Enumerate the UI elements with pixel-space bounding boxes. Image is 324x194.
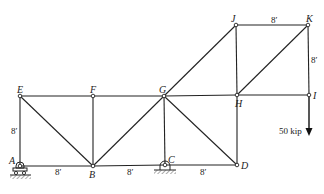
dimension-CD: 8′ — [200, 168, 206, 177]
load-label: 50 kip — [279, 127, 302, 136]
load-arrow — [306, 95, 313, 136]
member-HJ — [236, 25, 237, 95]
node-label-G: G — [159, 85, 166, 95]
joint-A — [18, 164, 22, 168]
node-label-I: I — [313, 91, 316, 101]
node-label-F: F — [90, 85, 96, 95]
node-label-D: D — [241, 161, 248, 171]
dimension-BC: 8′ — [127, 168, 133, 177]
node-label-C: C — [168, 155, 175, 165]
member-BC — [93, 165, 165, 166]
joint-D — [235, 163, 239, 167]
member-IK — [308, 25, 309, 95]
joint-B — [91, 164, 95, 168]
dimension-KI: 8′ — [311, 56, 317, 65]
joint-I — [307, 93, 311, 97]
member-GJ — [164, 25, 236, 96]
node-label-E: E — [17, 85, 23, 95]
member-CG — [164, 96, 165, 165]
dimension-JK: 8′ — [271, 16, 277, 25]
node-label-K: K — [306, 14, 313, 24]
dimension-AB: 8′ — [55, 168, 61, 177]
node-label-J: J — [231, 14, 235, 24]
member-EB — [20, 96, 93, 166]
truss-drawing — [0, 0, 324, 194]
joint-H — [235, 93, 239, 97]
node-label-A: A — [9, 156, 15, 166]
truss-diagram: A B C D E F G H I J K 8′ 8′ 8′ 8′ 8′ 8′ … — [0, 0, 324, 194]
joint-C — [163, 163, 167, 167]
member-HK — [237, 25, 308, 95]
member-BG — [93, 96, 164, 166]
node-label-B: B — [89, 170, 95, 180]
dimension-AE: 8′ — [11, 127, 17, 136]
member-GH — [164, 95, 237, 96]
node-label-H: H — [235, 99, 242, 109]
